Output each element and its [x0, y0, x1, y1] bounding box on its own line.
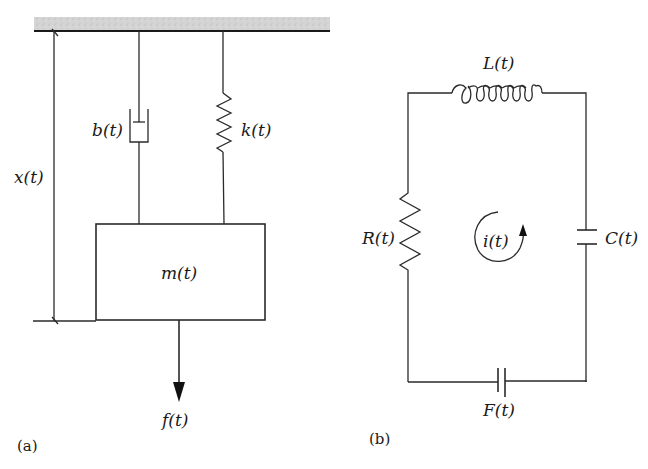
panel-a-mechanical-system: x(t) b(t) k(t) m(t) f(t) (a)	[14, 17, 330, 455]
force-label: f(t)	[160, 410, 188, 430]
damper-icon	[130, 31, 148, 224]
source-label: F(t)	[482, 400, 515, 420]
spring-label: k(t)	[241, 120, 271, 140]
resistor-label: R(t)	[361, 228, 395, 248]
panel-b-electrical-circuit: L(t) R(t) i(t) C(t)	[361, 53, 638, 448]
inductor-label: L(t)	[482, 53, 514, 73]
spring-icon	[217, 31, 231, 224]
source-icon	[408, 368, 586, 397]
panel-b-caption: (b)	[369, 430, 390, 448]
ceiling-ground-hatch	[34, 17, 330, 31]
resistor-icon	[400, 192, 420, 382]
displacement-label: x(t)	[14, 167, 44, 187]
mass-label: m(t)	[161, 263, 197, 283]
capacitor-label: C(t)	[605, 228, 638, 248]
current-label: i(t)	[483, 231, 509, 251]
panel-a-caption: (a)	[17, 437, 38, 455]
diagram-canvas: x(t) b(t) k(t) m(t) f(t) (a) L(t)	[0, 0, 648, 469]
inductor-icon	[408, 85, 586, 230]
damper-label: b(t)	[92, 120, 123, 140]
force-arrow-icon	[173, 320, 185, 402]
capacitor-icon	[577, 230, 597, 382]
